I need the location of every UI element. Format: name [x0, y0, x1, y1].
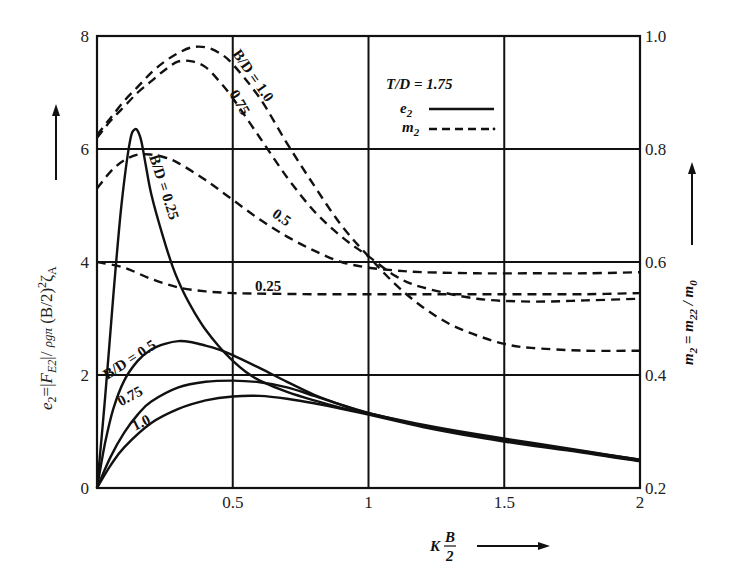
x-tick-label: 1 [364, 493, 373, 512]
y-right-tick-label: 0.6 [645, 253, 666, 272]
svg-text:m2 = m22 / m0: m2 = m22 / m0 [680, 280, 699, 365]
legend-label-e2: e2 [400, 100, 413, 119]
svg-text:B: B [444, 529, 455, 545]
curve-label: 0.5 [270, 205, 295, 229]
y-right-tick-label: 0.2 [645, 479, 666, 498]
legend: T/D = 1.75 e2 m2 [386, 76, 495, 138]
y-right-tick-label: 0.8 [645, 140, 666, 159]
svg-text:K: K [429, 538, 441, 554]
curve-label: 0.75 [226, 87, 253, 118]
y-left-tick-label: 6 [81, 140, 90, 159]
svg-text:e2=|FE2|/ ρgπ (B/2)2ζA: e2=|FE2|/ ρgπ (B/2)2ζA [35, 266, 59, 410]
curve-label: 1.0 [129, 411, 153, 434]
chart: 0.511.52024680.20.40.60.81.0 B/D = 0.25B… [0, 0, 738, 585]
x-tick-label: 1.5 [494, 493, 515, 512]
legend-title: T/D = 1.75 [386, 76, 453, 92]
grid-lines [97, 36, 640, 488]
legend-label-m2: m2 [402, 119, 420, 138]
y-axis-left-arrow [52, 104, 60, 180]
y-right-tick-label: 0.4 [645, 366, 667, 385]
y-axis-right-arrow [688, 162, 696, 245]
y-left-tick-label: 4 [81, 253, 90, 272]
y-left-tick-label: 2 [81, 366, 90, 385]
svg-text:2: 2 [445, 548, 454, 564]
y-left-tick-label: 0 [81, 479, 90, 498]
curve-label: 0.75 [115, 383, 146, 409]
y-left-tick-label: 8 [81, 27, 90, 46]
x-tick-label: 2 [636, 493, 645, 512]
x-axis-label: K B 2 [429, 529, 456, 564]
y-axis-right-label: m2 = m22 / m0 [680, 280, 699, 365]
curve-label: 0.25 [255, 278, 281, 294]
x-axis-arrow [477, 542, 550, 550]
y-axis-left-label: e2=|FE2|/ ρgπ (B/2)2ζA [35, 266, 59, 410]
x-tick-label: 0.5 [222, 493, 243, 512]
legend-swatch-dot [493, 128, 496, 131]
y-right-tick-label: 1.0 [645, 27, 666, 46]
